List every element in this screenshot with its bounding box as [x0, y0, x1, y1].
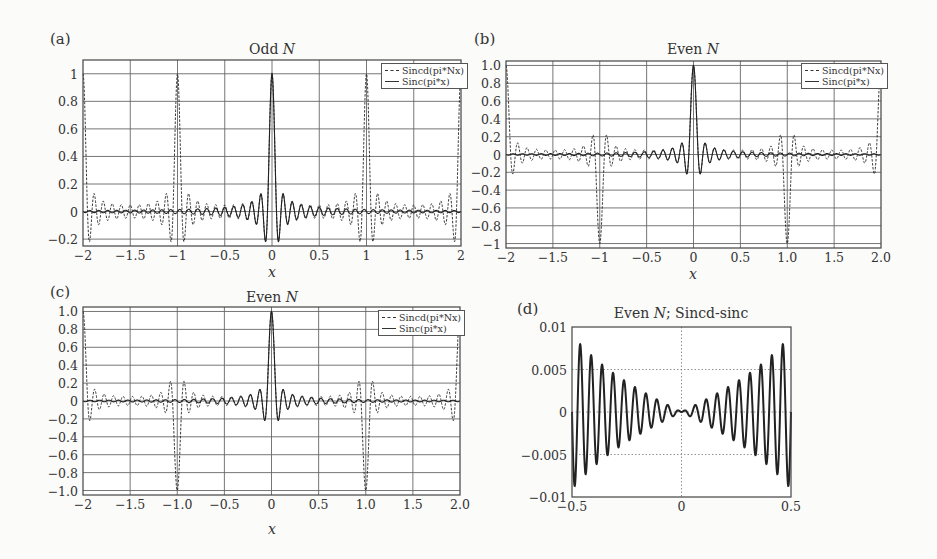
- x-tick-label: 0: [678, 499, 686, 514]
- y-tick-label: 0.4: [28, 149, 78, 164]
- panel-label: (a): [50, 30, 71, 48]
- panel-title: Even N: [667, 41, 719, 57]
- solid-line-swatch: [805, 81, 819, 82]
- panel-title: Odd N: [249, 41, 295, 57]
- y-tick-label: −0.2: [28, 232, 78, 247]
- x-tick-label: 1.0: [777, 250, 797, 265]
- y-tick-label: 0.4: [451, 111, 501, 126]
- y-tick-label: 0.2: [28, 376, 78, 391]
- x-tick-label: −0.5: [210, 248, 240, 263]
- x-tick-label: −1: [168, 248, 186, 263]
- chart-svg: [572, 327, 791, 497]
- y-tick-label: 0.2: [28, 177, 78, 192]
- x-tick-label: 1.0: [356, 497, 376, 512]
- x-tick-label: 0.5: [730, 250, 750, 265]
- y-tick-label: −1.0: [28, 483, 78, 498]
- x-tick-label: −1.5: [115, 248, 145, 263]
- chart-svg: [506, 61, 881, 248]
- bleed-through-text: [270, 18, 274, 34]
- x-tick-label: −2: [74, 497, 92, 512]
- y-tick-label: −0.2: [28, 411, 78, 426]
- y-tick-label: 0: [451, 147, 501, 162]
- panel-label: (d): [517, 300, 538, 318]
- y-tick-label: 1: [28, 66, 78, 81]
- y-tick-label: 0.6: [28, 121, 78, 136]
- x-tick-label: 1.5: [824, 250, 844, 265]
- x-tick-label: −1.0: [162, 497, 192, 512]
- y-tick-label: 0.6: [28, 340, 78, 355]
- x-tick-label: −1.5: [115, 497, 145, 512]
- plot-area: [506, 61, 881, 248]
- y-tick-label: −1: [451, 236, 501, 251]
- y-tick-label: −0.8: [451, 218, 501, 233]
- y-tick-label: 0.01: [517, 320, 567, 335]
- legend-item-sinc: Sinc(pi*x): [382, 323, 461, 334]
- y-tick-label: 0.8: [28, 94, 78, 109]
- x-tick-label: −0.5: [557, 499, 587, 514]
- y-tick-label: −0.6: [451, 200, 501, 215]
- panel-title: Even N; Sincd-sinc: [614, 305, 748, 321]
- y-tick-label: 0: [517, 405, 567, 420]
- x-tick-label: 0: [268, 248, 276, 263]
- x-tick-label: −2: [74, 248, 92, 263]
- x-axis-label: x: [268, 264, 276, 280]
- solid-line-swatch: [385, 81, 399, 82]
- y-tick-label: −0.005: [517, 447, 567, 462]
- y-tick-label: −0.8: [28, 465, 78, 480]
- x-tick-label: 2.0: [871, 250, 891, 265]
- y-tick-label: −0.6: [28, 447, 78, 462]
- y-tick-label: 0.2: [451, 129, 501, 144]
- y-tick-label: 0.6: [451, 94, 501, 109]
- x-tick-label: 0.5: [781, 499, 801, 514]
- x-tick-label: 0: [268, 497, 276, 512]
- x-tick-label: 0: [690, 250, 698, 265]
- legend: Sincd(pi*Nx) Sinc(pi*x): [378, 310, 465, 336]
- solid-line-swatch: [382, 328, 396, 329]
- x-axis-label: x: [268, 521, 276, 537]
- y-tick-label: −0.4: [28, 429, 78, 444]
- y-tick-label: −0.2: [451, 165, 501, 180]
- x-tick-label: −1: [591, 250, 609, 265]
- y-tick-label: 0.8: [28, 322, 78, 337]
- x-tick-label: 0.5: [309, 497, 329, 512]
- y-tick-label: 0.8: [451, 76, 501, 91]
- y-tick-label: 1.0: [451, 58, 501, 73]
- legend-item-sincd: Sincd(pi*Nx): [805, 65, 884, 76]
- plot-area: [572, 327, 791, 497]
- legend-item-sincd: Sincd(pi*Nx): [382, 312, 461, 323]
- dashed-line-swatch: [805, 70, 819, 71]
- x-tick-label: −1.5: [538, 250, 568, 265]
- y-tick-label: 0: [28, 394, 78, 409]
- dashed-line-swatch: [385, 70, 399, 71]
- x-tick-label: 1.5: [404, 248, 424, 263]
- y-tick-label: 0: [28, 204, 78, 219]
- y-tick-label: 0.005: [517, 362, 567, 377]
- x-tick-label: 1.5: [403, 497, 423, 512]
- x-tick-label: 2.0: [450, 497, 470, 512]
- dashed-line-swatch: [382, 317, 396, 318]
- panel-title: Even N: [246, 289, 298, 305]
- x-tick-label: 1: [363, 248, 371, 263]
- x-tick-label: 0.5: [309, 248, 329, 263]
- panel-label: (b): [474, 30, 495, 48]
- x-tick-label: −0.5: [631, 250, 661, 265]
- x-tick-label: −0.5: [209, 497, 239, 512]
- x-axis-label: x: [689, 266, 697, 282]
- y-tick-label: −0.4: [451, 183, 501, 198]
- legend-item-sinc: Sinc(pi*x): [805, 76, 884, 87]
- legend: Sincd(pi*Nx) Sinc(pi*x): [801, 63, 888, 89]
- y-tick-label: 0.4: [28, 358, 78, 373]
- x-tick-label: −2: [497, 250, 515, 265]
- panel-label: (c): [50, 283, 70, 301]
- y-tick-label: 1.0: [28, 304, 78, 319]
